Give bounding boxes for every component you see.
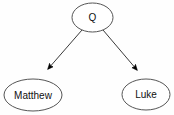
edge-q-to-matthew[interactable]	[48, 30, 82, 69]
graph-svg: Q Matthew Luke	[0, 0, 174, 115]
diagram-canvas: Q Matthew Luke	[0, 0, 174, 115]
edge-q-to-luke[interactable]	[103, 30, 137, 70]
node-luke-label: Luke	[135, 89, 157, 100]
node-matthew-label: Matthew	[14, 90, 53, 101]
edge-line-q-matthew	[48, 30, 82, 69]
node-q[interactable]: Q	[72, 3, 113, 32]
node-luke[interactable]: Luke	[122, 79, 170, 110]
node-q-label: Q	[89, 12, 97, 23]
edge-line-q-luke	[103, 30, 137, 70]
node-matthew[interactable]: Matthew	[4, 79, 62, 111]
